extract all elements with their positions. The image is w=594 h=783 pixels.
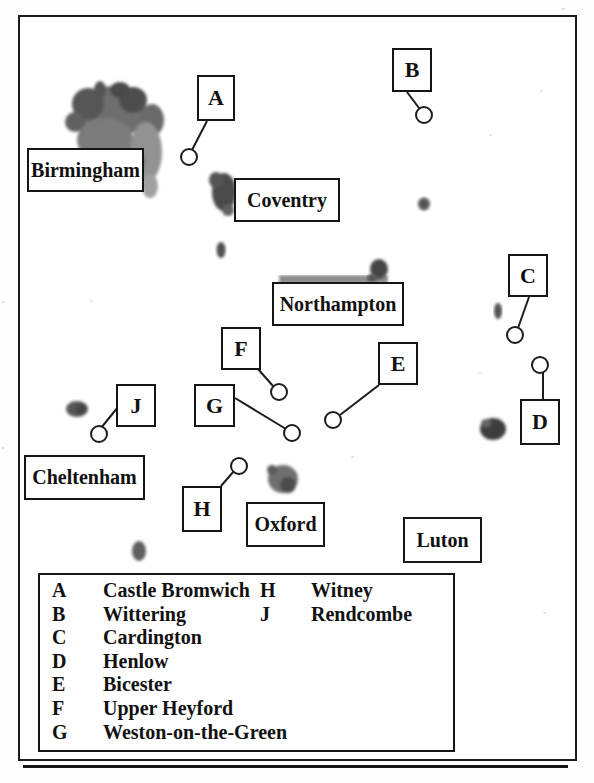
city-label-cheltenham: Cheltenham	[24, 455, 145, 500]
legend-row: G Weston-on-the-Green	[52, 721, 287, 745]
marker-box-e: E	[378, 342, 418, 385]
scan-speck	[1, 447, 5, 449]
legend-name: Cardington	[103, 626, 287, 650]
legend-name: Upper Heyford	[103, 697, 287, 721]
legend-letter: D	[52, 650, 103, 674]
scan-speck	[540, 90, 543, 92]
legend-name: Bicester	[103, 673, 287, 697]
legend-name: Rendcombe	[311, 603, 412, 627]
scan-speck	[2, 301, 5, 303]
marker-box-a: A	[197, 75, 235, 121]
legend-row: H Witney	[260, 579, 412, 603]
legend-row: C Cardington	[52, 626, 287, 650]
scan-speck	[561, 8, 566, 10]
legend-row: D Henlow	[52, 650, 287, 674]
scan-speck	[478, 372, 482, 374]
legend-row: B Wittering	[52, 603, 287, 627]
legend-letter: B	[52, 603, 103, 627]
legend-row: J Rendcombe	[260, 603, 412, 627]
marker-box-c: C	[508, 254, 548, 297]
legend-row: A Castle Bromwich	[52, 579, 287, 603]
legend-name: Weston-on-the-Green	[103, 721, 287, 745]
scan-speck	[90, 300, 93, 302]
city-label-northampton: Northampton	[272, 282, 404, 326]
legend-letter: H	[260, 579, 311, 603]
scanned-map-page: Birmingham Coventry Northampton Cheltenh…	[0, 0, 594, 783]
scan-speck	[351, 456, 354, 458]
marker-box-j: J	[116, 384, 156, 427]
legend-letter: G	[52, 721, 103, 745]
marker-box-g: G	[194, 384, 235, 427]
legend-row: E Bicester	[52, 673, 287, 697]
legend-row: F Upper Heyford	[52, 697, 287, 721]
marker-box-d: D	[520, 399, 560, 445]
city-label-luton: Luton	[403, 517, 482, 563]
legend-letter: A	[52, 579, 103, 603]
legend-column-2: H Witney J Rendcombe	[260, 579, 412, 626]
marker-box-b: B	[392, 48, 432, 92]
legend-letter: C	[52, 626, 103, 650]
legend-column-1: A Castle Bromwich B Wittering C Cardingt…	[52, 579, 287, 744]
legend-name: Witney	[311, 579, 412, 603]
city-label-oxford: Oxford	[246, 502, 325, 547]
legend-box: A Castle Bromwich B Wittering C Cardingt…	[38, 573, 455, 752]
legend-letter: J	[260, 603, 311, 627]
legend-letter: F	[52, 697, 103, 721]
scan-speck	[489, 134, 492, 136]
legend-name: Henlow	[103, 650, 287, 674]
marker-box-h: H	[182, 486, 222, 532]
bottom-rule	[23, 765, 568, 768]
scan-speck	[543, 612, 546, 614]
legend-letter: E	[52, 673, 103, 697]
city-label-coventry: Coventry	[234, 178, 340, 222]
marker-box-f: F	[221, 327, 261, 370]
city-label-birmingham: Birmingham	[27, 148, 144, 192]
